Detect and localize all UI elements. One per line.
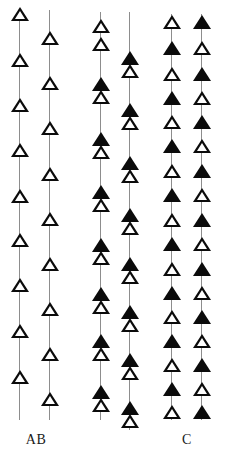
triangle-outline [121, 257, 139, 271]
triangle-outline [121, 103, 139, 117]
triangle-outline [92, 185, 110, 199]
triangle-fill [125, 120, 135, 128]
triangle-outline [193, 67, 211, 81]
triangle-fill [125, 68, 135, 76]
triangle-outline [121, 51, 139, 65]
triangle-fill [197, 290, 207, 298]
triangle-outline [92, 132, 110, 146]
triangle-outline [163, 286, 181, 300]
group-label-ab: AB [26, 432, 46, 448]
triangle-outline [92, 287, 110, 301]
triangle-fill [167, 217, 177, 225]
triangle-outline [121, 156, 139, 170]
triangle-outline [163, 41, 181, 55]
triangle-outline [193, 358, 211, 372]
triangle-outline [193, 213, 211, 227]
triangle-outline [193, 405, 211, 419]
triangle-outline [92, 334, 110, 348]
triangle-fill [96, 202, 106, 210]
triangle-fill [125, 274, 135, 282]
triangle-fill [15, 147, 25, 155]
triangle-fill [45, 216, 55, 224]
triangle-fill [15, 102, 25, 110]
triangle-fill [45, 306, 55, 314]
triangle-fill [45, 261, 55, 269]
triangle-fill [167, 119, 177, 127]
triangle-fill [197, 45, 207, 53]
triangle-fill [125, 370, 135, 378]
triangle-outline [193, 310, 211, 324]
triangle-fill [15, 11, 25, 19]
triangle-outline [121, 401, 139, 415]
triangle-fill [167, 314, 177, 322]
triangle-outline [121, 353, 139, 367]
triangle-fill [96, 351, 106, 359]
triangle-outline [193, 164, 211, 178]
group-label-c: C [182, 432, 192, 448]
triangle-fill [167, 409, 177, 417]
triangle-fill [96, 255, 106, 263]
triangle-fill [96, 402, 106, 410]
triangle-fill [197, 241, 207, 249]
triangle-outline [163, 334, 181, 348]
triangle-fill [197, 338, 207, 346]
triangle-fill [96, 23, 106, 31]
triangle-fill [167, 168, 177, 176]
triangle-fill [167, 266, 177, 274]
triangle-outline [193, 15, 211, 29]
triangle-outline [193, 115, 211, 129]
triangle-outline [121, 305, 139, 319]
triangle-fill [125, 225, 135, 233]
triangle-fill [125, 418, 135, 426]
triangle-fill [197, 95, 207, 103]
triangle-outline [121, 208, 139, 222]
triangle-fill [15, 282, 25, 290]
triangle-outline [163, 91, 181, 105]
triangle-fill [197, 386, 207, 394]
triangle-outline [163, 237, 181, 251]
triangle-outline [163, 139, 181, 153]
triangle-fill [15, 374, 25, 382]
triangle-outline [92, 238, 110, 252]
figure-canvas: ABC [0, 0, 226, 455]
triangle-fill [45, 171, 55, 179]
triangle-fill [197, 143, 207, 151]
triangle-fill [125, 322, 135, 330]
triangle-fill [96, 149, 106, 157]
triangle-fill [45, 80, 55, 88]
triangle-fill [96, 94, 106, 102]
triangle-fill [197, 192, 207, 200]
triangle-fill [45, 125, 55, 133]
triangle-outline [163, 382, 181, 396]
triangle-fill [167, 19, 177, 27]
triangle-fill [45, 35, 55, 43]
triangle-fill [15, 328, 25, 336]
triangle-fill [125, 173, 135, 181]
triangle-outline [193, 262, 211, 276]
triangle-fill [15, 57, 25, 65]
triangle-outline [92, 77, 110, 91]
triangle-fill [45, 351, 55, 359]
triangle-fill [15, 193, 25, 201]
triangle-fill [167, 362, 177, 370]
triangle-fill [167, 71, 177, 79]
triangle-fill [45, 396, 55, 404]
triangle-fill [96, 41, 106, 49]
triangle-outline [163, 188, 181, 202]
triangle-outline [92, 385, 110, 399]
triangle-fill [15, 237, 25, 245]
transect-line [19, 14, 20, 420]
triangle-fill [96, 304, 106, 312]
